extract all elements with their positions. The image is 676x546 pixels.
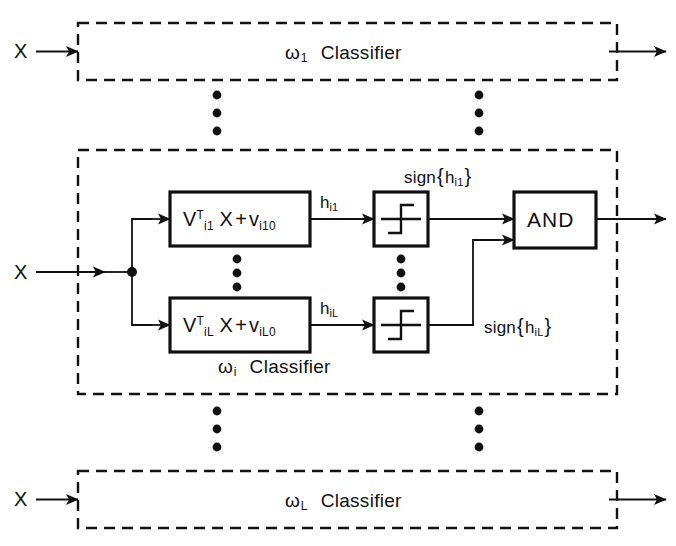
sign-i1-arg-subscript: i1 <box>455 176 464 188</box>
signal-label-h-iL: hiL <box>320 300 338 319</box>
ellipsis-bottom-right <box>475 407 484 452</box>
input-label-bottom: X <box>14 489 28 509</box>
formula-L-V-superscript: T <box>197 314 205 328</box>
formula-1-V: V <box>183 208 197 230</box>
formula-L-v: v <box>249 314 259 336</box>
sign-i1-brace-close: } <box>464 165 473 187</box>
ellipsis-discriminants <box>233 255 242 292</box>
top-classifier-label: ω1Classifier <box>285 43 402 64</box>
formula-1-V-superscript: T <box>197 208 205 222</box>
ellipsis-bottom-left <box>213 407 222 452</box>
sign-iL-prefix: sign <box>484 318 516 337</box>
formula-L-V-subscript: iL <box>204 325 214 339</box>
input-label-top: X <box>14 41 28 61</box>
ellipsis-sign-blocks <box>397 255 406 292</box>
sign-iL-brace-open: { <box>516 315 525 337</box>
discriminant-formula-1: VTi1 X+vi10 <box>183 209 276 232</box>
discriminant-formula-L: VTiL X+viL0 <box>183 315 276 338</box>
formula-1-v: v <box>249 208 259 230</box>
formula-1-X: X <box>220 208 234 230</box>
bottom-classifier-label: ωLClassifier <box>285 491 402 512</box>
bottom-classifier-name: Classifier <box>321 490 402 511</box>
ellipsis-top-left <box>213 91 222 136</box>
sign-iL-arg-subscript: iL <box>535 326 544 338</box>
formula-L-V: V <box>183 314 197 336</box>
formula-L-plus: + <box>233 314 249 336</box>
signal-label-sign-h-i1: sign{hi1} <box>404 166 472 188</box>
signal-label-sign-h-iL: sign{hiL} <box>484 316 552 338</box>
input-label-middle: X <box>14 262 28 282</box>
signal-label-h-i1: hi1 <box>320 194 338 213</box>
middle-classifier-label: ωiClassifier <box>218 357 331 378</box>
middle-classifier-subscript: i <box>233 365 236 379</box>
sign-i1-brace-open: { <box>436 165 445 187</box>
middle-classifier-box <box>78 150 617 394</box>
formula-1-V-subscript: i1 <box>204 219 214 233</box>
h-i1-subscript: i1 <box>329 201 338 213</box>
ellipsis-top-right <box>475 91 484 136</box>
top-classifier-name: Classifier <box>321 42 402 63</box>
h-iL-subscript: iL <box>329 307 338 319</box>
and-gate-label: AND <box>527 209 574 230</box>
top-classifier-omega: ω <box>285 42 300 63</box>
bottom-classifier-subscript: L <box>300 499 307 513</box>
formula-L-X: X <box>220 314 234 336</box>
sign-iL-arg: h <box>525 318 535 337</box>
sign-iL-brace-close: } <box>544 315 553 337</box>
diagram-vector-layer <box>0 0 676 546</box>
middle-classifier-omega: ω <box>218 356 233 377</box>
formula-L-v-subscript: iL0 <box>259 325 276 339</box>
bottom-classifier-omega: ω <box>285 490 300 511</box>
formula-1-v-subscript: i10 <box>259 219 276 233</box>
sign-i1-prefix: sign <box>404 168 436 187</box>
top-classifier-subscript: 1 <box>300 51 307 65</box>
formula-1-plus: + <box>233 208 249 230</box>
middle-classifier-name: Classifier <box>250 356 331 377</box>
diagram-canvas: X X X ω1Classifier ωiClassifier ωLClassi… <box>0 0 676 546</box>
wire-sign-iL-to-and <box>428 240 500 325</box>
sign-i1-arg: h <box>445 168 455 187</box>
fanout-wire-upper <box>132 219 152 272</box>
fanout-wire-lower <box>132 272 152 325</box>
